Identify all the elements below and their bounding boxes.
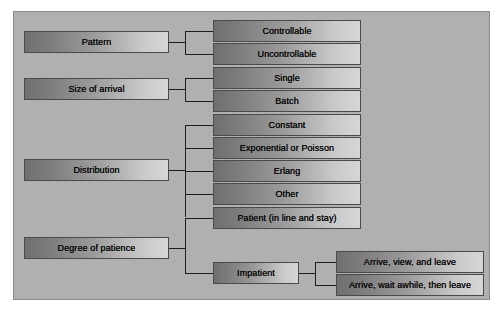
connector-size-stem [169, 89, 185, 90]
connector-distribution-stem [169, 170, 185, 171]
node-other[interactable]: Other [213, 183, 361, 205]
node-arrive-wait-awhile-then-leave-label: Arrive, wait awhile, then leave [349, 281, 471, 290]
node-patient-label: Patient (in line and stay) [237, 214, 336, 223]
connector-pattern-bracket [185, 31, 186, 54]
node-exponential-or-poisson[interactable]: Exponential or Poisson [213, 137, 361, 159]
node-erlang-label: Erlang [274, 167, 301, 176]
connector-size-to-single [185, 78, 213, 79]
node-batch-label: Batch [275, 97, 299, 106]
connector-size-to-batch [185, 101, 213, 102]
node-impatient-label: Impatient [237, 269, 275, 278]
connector-patience-stem [169, 248, 185, 249]
node-uncontrollable-label: Uncontrollable [258, 50, 317, 59]
node-erlang[interactable]: Erlang [213, 160, 361, 182]
node-other-label: Other [275, 190, 298, 199]
node-pattern[interactable]: Pattern [24, 31, 169, 53]
node-constant-label: Constant [269, 121, 306, 130]
node-single-label: Single [274, 74, 300, 83]
connector-impatient-bracket [315, 262, 316, 285]
diagram-canvas: Pattern Controllable Uncontrollable Size… [0, 0, 503, 318]
connector-distribution-to-constant [185, 125, 213, 126]
node-size-of-arrival-label: Size of arrival [68, 85, 124, 94]
connector-impatient-to-arrive-view-and-leave [315, 262, 336, 263]
connector-distribution-to-erlang [185, 171, 213, 172]
connector-patience-bracket [185, 218, 186, 273]
connector-impatient-to-arrive-wait-awhile [315, 285, 336, 286]
connector-patience-to-impatient [185, 273, 213, 274]
node-controllable-label: Controllable [262, 27, 311, 36]
connector-pattern-stem [169, 42, 185, 43]
connector-pattern-to-uncontrollable [185, 54, 213, 55]
connector-distribution-to-other [185, 194, 213, 195]
node-arrive-view-and-leave-label: Arrive, view, and leave [364, 258, 456, 267]
node-distribution[interactable]: Distribution [24, 159, 169, 181]
connector-patience-to-patient [185, 218, 213, 219]
node-controllable[interactable]: Controllable [213, 20, 361, 42]
node-arrive-wait-awhile-then-leave[interactable]: Arrive, wait awhile, then leave [336, 274, 484, 296]
node-uncontrollable[interactable]: Uncontrollable [213, 43, 361, 65]
node-distribution-label: Distribution [73, 166, 119, 175]
node-impatient[interactable]: Impatient [213, 262, 299, 284]
connector-distribution-to-exponential [185, 148, 213, 149]
node-size-of-arrival[interactable]: Size of arrival [24, 78, 169, 100]
node-batch[interactable]: Batch [213, 90, 361, 112]
connector-pattern-to-controllable [185, 31, 213, 32]
node-exponential-or-poisson-label: Exponential or Poisson [240, 144, 334, 153]
node-single[interactable]: Single [213, 67, 361, 89]
node-constant[interactable]: Constant [213, 114, 361, 136]
node-arrive-view-and-leave[interactable]: Arrive, view, and leave [336, 251, 484, 273]
node-patient[interactable]: Patient (in line and stay) [213, 207, 361, 229]
node-degree-of-patience[interactable]: Degree of patience [24, 237, 169, 259]
node-degree-of-patience-label: Degree of patience [58, 244, 136, 253]
diagram-frame: Pattern Controllable Uncontrollable Size… [13, 11, 490, 300]
connector-impatient-stem [299, 273, 315, 274]
connector-size-bracket [185, 78, 186, 101]
node-pattern-label: Pattern [82, 38, 112, 47]
